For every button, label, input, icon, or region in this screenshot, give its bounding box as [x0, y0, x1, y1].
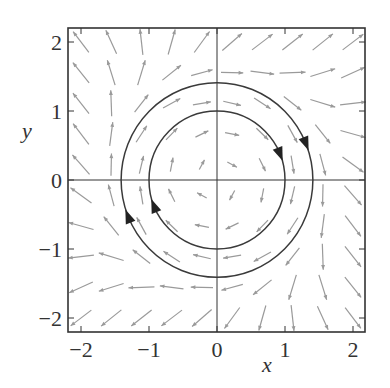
y-tick-label: 0: [51, 168, 62, 193]
direction-arrowhead-icon: [273, 146, 283, 161]
x-tick-label: 2: [348, 337, 359, 362]
y-tick-label: −2: [39, 306, 62, 331]
y-tick-label: 1: [51, 99, 62, 124]
direction-arrowhead-icon: [125, 210, 135, 225]
quiver-plot: −2−2−1−1001122 x y: [0, 0, 390, 388]
direction-arrowhead-icon: [299, 135, 309, 150]
direction-arrowhead-icon: [151, 199, 161, 214]
x-axis-label: x: [261, 352, 272, 377]
y-axis-label: y: [20, 118, 32, 143]
y-tick-label: 2: [51, 30, 62, 55]
y-tick-label: −1: [39, 237, 62, 262]
x-tick-label: −1: [137, 337, 160, 362]
x-tick-label: 0: [212, 337, 223, 362]
x-tick-label: −2: [69, 337, 92, 362]
x-tick-label: 1: [280, 337, 291, 362]
